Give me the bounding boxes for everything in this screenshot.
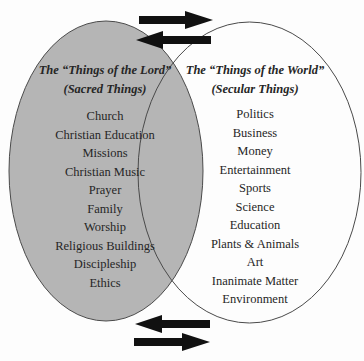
- secular-item: Education: [180, 216, 330, 235]
- sacred-subtitle: (Sacred Things): [20, 80, 190, 99]
- secular-things-group: The “Things of the World” (Secular Thing…: [180, 61, 330, 309]
- secular-item: Inanimate Matter: [180, 272, 330, 291]
- arrow-right-icon: [134, 333, 210, 351]
- sacred-item: Discipleship: [20, 255, 190, 274]
- secular-item: Art: [180, 253, 330, 272]
- sacred-item: Family: [20, 200, 190, 219]
- sacred-items-list: Church Christian Education Missions Chri…: [20, 107, 190, 292]
- secular-item: Business: [180, 124, 330, 143]
- secular-subtitle: (Secular Things): [180, 80, 330, 99]
- secular-item: Money: [180, 142, 330, 161]
- secular-item: Science: [180, 198, 330, 217]
- secular-item: Sports: [180, 179, 330, 198]
- arrow-right-icon: [139, 11, 213, 29]
- sacred-item: Christian Music: [20, 163, 190, 182]
- secular-items-list: Politics Business Money Entertainment Sp…: [180, 105, 330, 309]
- arrow-left-icon: [135, 315, 210, 333]
- sacred-item: Church: [20, 107, 190, 126]
- sacred-item: Missions: [20, 144, 190, 163]
- sacred-title: The “Things of the Lord”: [20, 61, 190, 80]
- sacred-item: Prayer: [20, 181, 190, 200]
- sacred-item: Worship: [20, 218, 190, 237]
- secular-item: Politics: [180, 105, 330, 124]
- secular-item: Entertainment: [180, 161, 330, 180]
- sacred-item: Christian Education: [20, 126, 190, 145]
- sacred-things-group: The “Things of the Lord” (Sacred Things)…: [20, 61, 190, 292]
- sacred-item: Ethics: [20, 274, 190, 293]
- secular-item: Plants & Animals: [180, 235, 330, 254]
- secular-title: The “Things of the World”: [180, 61, 330, 80]
- venn-diagram: The “Things of the Lord” (Sacred Things)…: [0, 0, 364, 361]
- sacred-item: Religious Buildings: [20, 237, 190, 256]
- secular-item: Environment: [180, 290, 330, 309]
